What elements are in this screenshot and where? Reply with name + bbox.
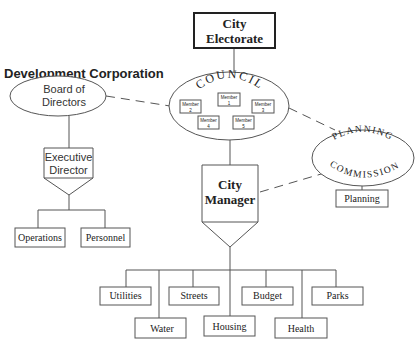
svg-text:Member: Member xyxy=(221,95,238,100)
svg-text:Planning: Planning xyxy=(344,193,380,204)
manager-line1: City xyxy=(218,177,242,192)
svg-text:Member: Member xyxy=(200,118,217,123)
planning-commission-ellipse[interactable]: PLANNING COMMISSION xyxy=(312,124,414,186)
electorate-line2: Electorate xyxy=(206,31,263,46)
svg-text:Personnel: Personnel xyxy=(86,232,126,243)
org-chart: City Electorate Development Corporation … xyxy=(0,0,416,349)
council-member-3[interactable]: Member 3 xyxy=(252,100,274,113)
dept-planning[interactable]: Planning xyxy=(336,190,388,207)
svg-text:Utilities: Utilities xyxy=(109,290,141,301)
svg-text:Operations: Operations xyxy=(18,232,62,243)
council-ellipse[interactable]: COUNCIL Member 1 Member 2 Member 3 Membe… xyxy=(169,67,289,140)
electorate-line1: City xyxy=(223,16,247,31)
dept-water[interactable]: Water xyxy=(135,318,186,338)
executive-line2: Director xyxy=(49,164,88,176)
dept-streets[interactable]: Streets xyxy=(169,287,219,305)
council-planning-dashed-link xyxy=(289,108,335,130)
svg-text:Parks: Parks xyxy=(326,290,348,301)
dept-parks[interactable]: Parks xyxy=(312,287,363,305)
manager-line2: Manager xyxy=(205,192,256,207)
council-member-1[interactable]: Member 1 xyxy=(218,93,240,106)
board-council-dashed-link xyxy=(106,96,170,106)
council-member-2[interactable]: Member 2 xyxy=(180,100,201,113)
svg-text:Water: Water xyxy=(150,323,174,334)
city-electorate-box[interactable]: City Electorate xyxy=(194,13,275,48)
dept-personnel[interactable]: Personnel xyxy=(81,228,130,247)
dept-utilities[interactable]: Utilities xyxy=(100,287,151,305)
board-of-directors-ellipse[interactable]: Board of Directors xyxy=(10,76,106,116)
svg-text:Member: Member xyxy=(182,102,199,107)
svg-text:Housing: Housing xyxy=(213,321,247,332)
council-member-4[interactable]: Member 4 xyxy=(198,116,219,129)
svg-text:Streets: Streets xyxy=(180,290,207,301)
manager-planning-dashed-link xyxy=(260,172,328,192)
dept-housing[interactable]: Housing xyxy=(204,316,255,336)
dept-health[interactable]: Health xyxy=(275,318,327,338)
council-member-5[interactable]: Member 5 xyxy=(233,116,254,129)
city-manager-box[interactable]: City Manager xyxy=(202,165,258,247)
dept-budget[interactable]: Budget xyxy=(242,287,293,305)
svg-text:Member: Member xyxy=(255,102,272,107)
board-line2: Directors xyxy=(42,96,87,108)
dept-operations[interactable]: Operations xyxy=(15,228,65,247)
svg-text:Health: Health xyxy=(288,323,315,334)
svg-text:Budget: Budget xyxy=(253,290,282,301)
board-line1: Board of xyxy=(43,83,86,95)
executive-line1: Executive xyxy=(45,151,93,163)
svg-text:Member: Member xyxy=(235,118,252,123)
executive-director-box[interactable]: Executive Director xyxy=(44,148,93,195)
